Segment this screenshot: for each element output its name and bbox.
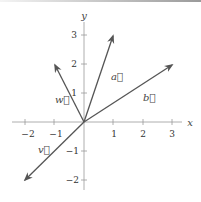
y-axis-label: y — [80, 10, 87, 21]
vector-w-label: w⃗ — [55, 94, 70, 105]
vector-a-arrow — [84, 36, 113, 122]
vector-a-label: a⃗ — [111, 71, 123, 82]
x-tick-label: 1 — [111, 129, 117, 139]
x-axis-label: x — [187, 117, 193, 128]
y-tick-label: −2 — [66, 175, 79, 185]
y-tick-label: −1 — [66, 146, 79, 156]
vector-b-arrow — [84, 65, 172, 122]
x-tick-label: 3 — [169, 129, 175, 139]
vector-v-label: v⃗ — [38, 144, 50, 155]
x-tick-label: −1 — [49, 129, 62, 139]
y-tick-label: 1 — [71, 88, 77, 98]
vector-b-label: b⃗ — [143, 92, 155, 103]
x-tick-label: 2 — [140, 129, 146, 139]
y-tick-label: 2 — [71, 59, 77, 69]
y-tick-label: 3 — [71, 30, 77, 40]
x-tick-label: −2 — [21, 129, 34, 139]
vector-diagram: −2 −1 1 2 3 3 2 1 −1 −2 x y a⃗ b⃗ w⃗ v⃗ — [0, 0, 201, 202]
x-axis — [12, 119, 182, 125]
y-axis — [81, 22, 87, 190]
